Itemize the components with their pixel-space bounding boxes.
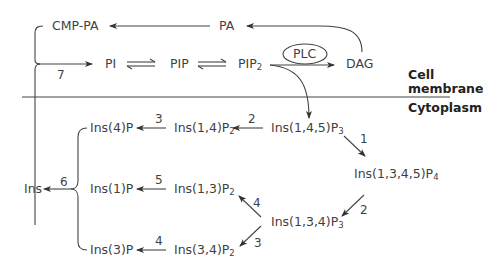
node-ins-1-3-p2-base: Ins(1,3)P <box>174 181 229 196</box>
enzyme-number-6: 6 <box>60 176 68 188</box>
node-ins-3-4-p2: Ins(3,4)P2 <box>174 244 235 258</box>
node-dag: DAG <box>346 58 373 71</box>
enzyme-number-5: 5 <box>155 174 163 186</box>
node-ins-1-4-5-p3: Ins(1,4,5)P3 <box>271 122 344 136</box>
node-ins-3-4-p2-base: Ins(3,4)P <box>174 242 229 257</box>
node-ins-1-3-p2: Ins(1,3)P2 <box>174 183 235 197</box>
cytoplasm-label: Cytoplasm <box>408 101 482 115</box>
node-ins: Ins <box>24 183 42 196</box>
enzyme-number-1: 1 <box>360 133 368 145</box>
node-ins-1-3-4-5-p4-base: Ins(1,3,4,5)P <box>354 166 433 181</box>
node-ins-1-3-4-p3-base: Ins(1,3,4)P <box>271 214 338 229</box>
node-pip2-subscript: 2 <box>257 62 262 72</box>
cell-membrane-label-line2: membrane <box>408 82 483 96</box>
enzyme-plc: PLC <box>293 48 316 61</box>
node-ins-1-4-p2: Ins(1,4)P2 <box>174 122 235 136</box>
node-ins-1-4-p2-subscript: 2 <box>229 126 234 136</box>
enzyme-number-4-a: 4 <box>253 197 261 209</box>
enzyme-number-2-b: 2 <box>360 204 368 216</box>
node-ins-1-4-p2-base: Ins(1,4)P <box>174 120 229 135</box>
node-ins-1-3-4-p3: Ins(1,3,4)P3 <box>271 216 344 230</box>
node-ins-1-3-p2-subscript: 2 <box>229 187 234 197</box>
node-ins-1-3-4-5-p4-subscript: 4 <box>433 172 438 182</box>
node-pa: PA <box>219 20 234 33</box>
node-pip2-base: PIP <box>238 56 257 71</box>
node-pip: PIP <box>170 58 189 71</box>
node-pip2: PIP2 <box>238 58 262 72</box>
enzyme-number-2-a: 2 <box>248 113 256 125</box>
node-ins-1-4-5-p3-base: Ins(1,4,5)P <box>271 120 338 135</box>
enzyme-number-4-b: 4 <box>155 235 163 247</box>
node-ins-1-3-4-p3-subscript: 3 <box>338 220 343 230</box>
enzyme-number-3-b: 3 <box>254 237 262 249</box>
node-ins-1-4-5-p3-subscript: 3 <box>338 126 343 136</box>
node-ins-3-p: Ins(3)P <box>90 244 133 257</box>
node-pi: PI <box>105 58 116 71</box>
enzyme-number-3-a: 3 <box>155 113 163 125</box>
node-ins-1-3-4-5-p4: Ins(1,3,4,5)P4 <box>354 168 439 182</box>
node-ins-3-4-p2-subscript: 2 <box>229 248 234 258</box>
enzyme-number-7: 7 <box>57 69 65 81</box>
cell-membrane-label-line1: Cell <box>408 68 483 82</box>
node-cmp-pa: CMP-PA <box>52 20 99 33</box>
node-ins-4-p: Ins(4)P <box>90 122 133 135</box>
node-ins-1-p: Ins(1)P <box>90 183 133 196</box>
cell-membrane-label: Cell membrane <box>408 68 483 97</box>
